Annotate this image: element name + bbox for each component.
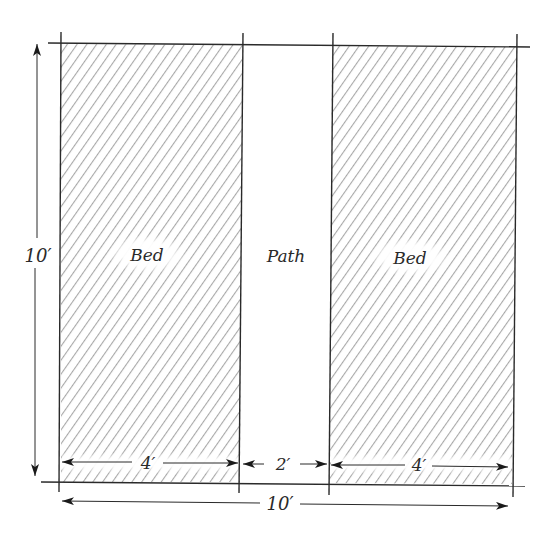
path-label: Path <box>266 246 306 266</box>
garden-layout-diagram: 10′ Bed Path Bed 4′ 2′ 4′ 10′ <box>0 0 551 536</box>
height-label: 10′ <box>25 245 52 266</box>
bed-left-label: Bed <box>129 245 164 265</box>
bed-right-label: Bed <box>392 248 427 268</box>
height-dimension: 10′ <box>20 44 54 476</box>
bed-left-width-label: 4′ <box>140 453 156 473</box>
bed-left-left-edge <box>59 32 61 492</box>
total-width-label: 10′ <box>267 493 294 514</box>
bed-right-width-label: 4′ <box>411 455 427 475</box>
total-width-arrow-right <box>300 504 508 506</box>
path-width-label: 2′ <box>275 454 291 474</box>
total-width-arrow-left <box>62 501 260 503</box>
